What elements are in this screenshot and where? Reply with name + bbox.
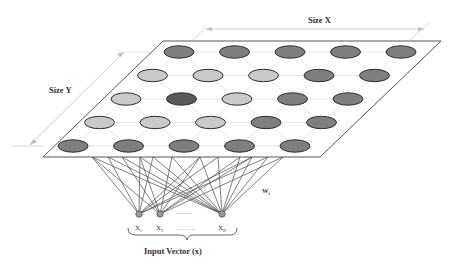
map-node-medium (278, 93, 308, 105)
map-node-medium (304, 69, 334, 81)
weight-connection (92, 157, 139, 214)
map-node-light (111, 93, 141, 105)
map-node-medium (225, 140, 255, 152)
map-node-medium (386, 46, 416, 58)
input-label-sub: 1 (140, 228, 142, 233)
ellipsis-bottom: ........... (176, 226, 195, 231)
weight-connection (139, 157, 200, 214)
size-x-dimension: Size X (193, 15, 430, 40)
map-node-medium (331, 46, 361, 58)
weight-label-sub: i (269, 191, 271, 196)
map-node-light (193, 69, 223, 81)
input-vector-label: Input Vector (x) (144, 246, 202, 256)
map-node-medium (307, 116, 337, 128)
map-node-medium (251, 116, 281, 128)
input-label-sub: D (223, 228, 226, 233)
weight-connection (222, 157, 268, 214)
map-node-light (140, 116, 170, 128)
input-label-3: XD (218, 224, 226, 233)
map-node-medium (333, 93, 363, 105)
input-label-sub: 2 (161, 228, 163, 233)
weight-connection (140, 157, 222, 214)
weight-connection (108, 157, 222, 214)
size-y-label: Size Y (49, 85, 72, 95)
map-node-medium (58, 140, 88, 152)
weight-connection (139, 157, 140, 214)
som-plane (43, 41, 441, 157)
map-node-medium (114, 140, 144, 152)
weight-connection (108, 157, 139, 214)
weight-connection (139, 157, 252, 214)
size-x-label: Size X (308, 15, 332, 25)
input-node-2 (157, 211, 163, 217)
input-node-3 (219, 211, 225, 217)
input-node-1 (136, 211, 142, 217)
input-label-1: X1 (135, 224, 142, 233)
weight-connection (172, 157, 222, 214)
map-node-medium (220, 46, 250, 58)
map-node-medium (280, 140, 310, 152)
map-node-medium (360, 69, 390, 81)
map-node-light (196, 116, 226, 128)
map-node-light (85, 116, 115, 128)
map-node-light (249, 69, 279, 81)
map-node-dark (167, 93, 197, 105)
input-label-2: X2 (156, 224, 163, 233)
map-node-light (138, 69, 168, 81)
som-diagram: Size X Size Y ........... ........... X1… (0, 0, 457, 267)
map-node-medium (169, 140, 199, 152)
weight-connections (92, 157, 283, 214)
weight-connection (153, 157, 222, 214)
map-node-light (222, 93, 252, 105)
map-node-medium (275, 46, 305, 58)
map-node-medium (164, 46, 194, 58)
weight-label: Wi (262, 187, 271, 196)
ellipsis-top: ........... (176, 210, 192, 215)
